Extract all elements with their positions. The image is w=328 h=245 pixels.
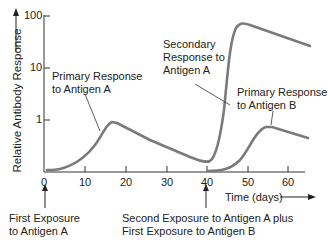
y-tick-10: 10 bbox=[30, 61, 42, 73]
annotation-secondary-a: Secondary Response to Antigen A bbox=[163, 38, 225, 77]
x-tick-40: 40 bbox=[201, 176, 213, 188]
annotation-primary-a: Primary Response to Antigen A bbox=[52, 70, 142, 96]
y-axis-label: Relative Antibody Response bbox=[11, 43, 24, 173]
x-tick-30: 30 bbox=[161, 176, 173, 188]
x-tick-0: 0 bbox=[41, 176, 47, 188]
chart-canvas bbox=[0, 0, 328, 245]
annotation-primary-b: Primary Response to Antigen B bbox=[237, 86, 327, 112]
antigen-b-curve bbox=[208, 127, 308, 171]
annotation-first-exposure: First Exposure to Antigen A bbox=[9, 212, 80, 238]
x-tick-10: 10 bbox=[79, 176, 91, 188]
x-axis-label: Time (days) bbox=[225, 191, 283, 204]
annotation-second-exposure: Second Exposure to Antigen A plus First … bbox=[122, 212, 293, 238]
x-tick-20: 20 bbox=[120, 176, 132, 188]
y-tick-1: 1 bbox=[36, 113, 42, 125]
y-tick-100: 100 bbox=[24, 9, 42, 21]
x-tick-50: 50 bbox=[242, 176, 254, 188]
x-tick-60: 60 bbox=[282, 176, 294, 188]
